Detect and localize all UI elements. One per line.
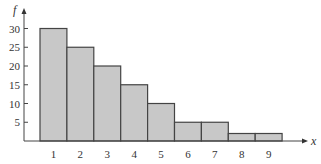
- x-tick-label: 3: [105, 148, 111, 160]
- x-tick-label: 8: [239, 148, 245, 160]
- x-axis-label: x: [310, 134, 317, 148]
- y-tick-label: 5: [15, 116, 21, 128]
- bar-4: [121, 85, 148, 141]
- histogram-chart: 51015202530 123456789 f x: [0, 0, 321, 164]
- y-axis-label: f: [13, 3, 18, 17]
- y-tick-label: 20: [9, 60, 21, 72]
- x-tick-label: 4: [131, 148, 137, 160]
- x-ticks-group: 123456789: [51, 148, 272, 160]
- y-tick-label: 25: [9, 41, 21, 53]
- y-tick-label: 15: [9, 79, 21, 91]
- x-tick-label: 2: [78, 148, 84, 160]
- x-axis-arrow-icon: [302, 139, 308, 144]
- bar-2: [67, 47, 94, 141]
- bar-9: [255, 134, 282, 142]
- y-tick-label: 30: [9, 23, 21, 35]
- bar-7: [201, 122, 228, 141]
- x-tick-label: 6: [185, 148, 191, 160]
- x-tick-label: 5: [158, 148, 164, 160]
- bar-1: [40, 29, 67, 142]
- x-tick-label: 1: [51, 148, 57, 160]
- x-tick-label: 9: [266, 148, 272, 160]
- y-ticks-group: 51015202530: [9, 23, 28, 129]
- bar-8: [228, 134, 255, 142]
- y-axis-arrow-icon: [22, 8, 27, 14]
- bar-6: [175, 122, 202, 141]
- x-tick-label: 7: [212, 148, 218, 160]
- y-tick-label: 10: [9, 98, 21, 110]
- bar-5: [148, 104, 175, 142]
- bar-3: [94, 66, 121, 141]
- bars-group: [40, 29, 282, 142]
